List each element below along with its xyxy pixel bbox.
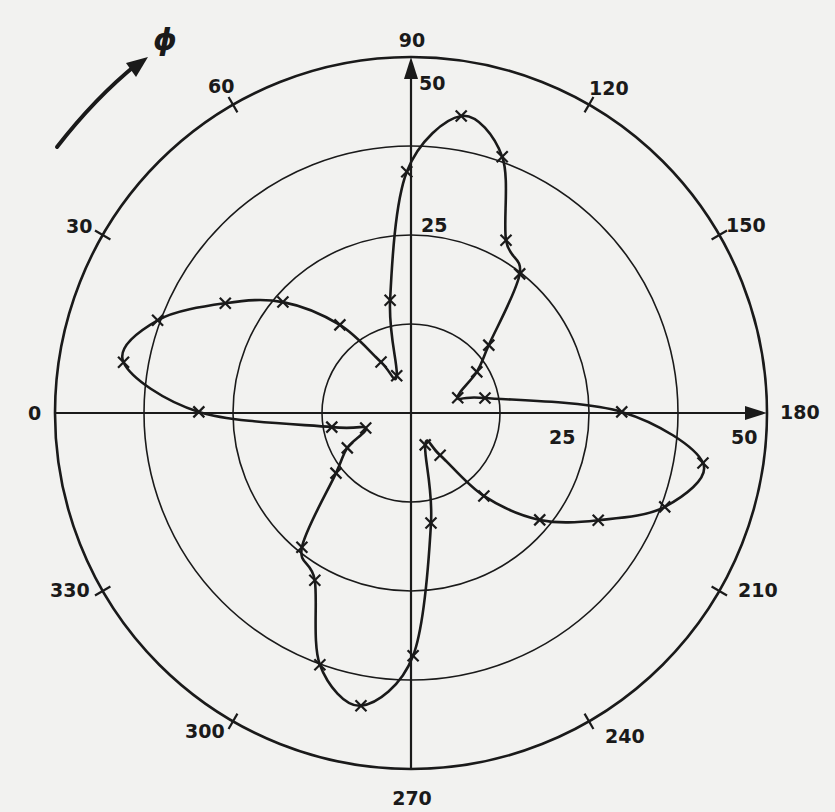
angle-label-150: 150 xyxy=(726,214,766,236)
x-marker-icon xyxy=(334,319,345,330)
x-marker-icon xyxy=(330,468,341,479)
axis-arrow-up-icon xyxy=(404,57,418,79)
tick-60 xyxy=(229,97,238,112)
tick-30 xyxy=(95,231,110,240)
radial-label-50-right: 50 xyxy=(731,426,757,448)
angle-label-120: 120 xyxy=(589,77,629,99)
angle-label-210: 210 xyxy=(738,579,778,601)
angle-label-60: 60 xyxy=(208,75,234,97)
tick-150 xyxy=(712,231,727,240)
angle-label-90: 90 xyxy=(399,29,425,51)
data-curve xyxy=(122,116,704,706)
x-marker-icon xyxy=(471,366,482,377)
tick-210 xyxy=(712,587,727,596)
axis-arrow-right-icon xyxy=(745,406,767,420)
radial-label-25-right: 25 xyxy=(549,426,575,448)
x-marker-icon xyxy=(483,340,494,351)
angle-label-240: 240 xyxy=(605,725,645,747)
x-marker-icon xyxy=(478,490,489,501)
series-0-line xyxy=(122,116,704,706)
x-marker-icon xyxy=(435,450,446,461)
tick-300 xyxy=(229,714,238,729)
angle-label-0: 0 xyxy=(28,402,41,424)
x-marker-icon xyxy=(342,442,353,453)
radial-label-25-upper: 25 xyxy=(421,214,447,236)
phi-direction-arrow-icon xyxy=(57,57,148,147)
tick-330 xyxy=(95,587,110,596)
angle-label-330: 330 xyxy=(50,579,90,601)
phi-symbol: ϕ xyxy=(153,22,177,57)
radial-label-50-upper: 50 xyxy=(419,72,445,94)
tick-240 xyxy=(585,714,594,729)
tick-120 xyxy=(585,97,594,112)
angle-label-180: 180 xyxy=(780,401,820,423)
data-markers xyxy=(118,111,708,712)
polar-chart: ϕ 0306090120150180210240270300330 50 25 … xyxy=(0,0,835,812)
angle-label-270: 270 xyxy=(392,787,432,809)
angle-label-30: 30 xyxy=(66,215,92,237)
angle-label-300: 300 xyxy=(185,720,225,742)
x-marker-icon xyxy=(376,357,387,368)
